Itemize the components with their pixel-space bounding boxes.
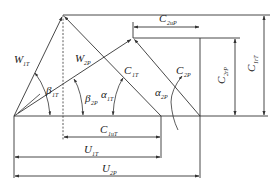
svg-text:C: C xyxy=(215,76,227,84)
label-w1t: W 1T xyxy=(14,53,30,67)
svg-text:2P: 2P xyxy=(161,94,168,100)
velocity-triangle-diagram: W 1T W 2P C 1T C 2P C 2uP C 2rP C 1rT C … xyxy=(0,0,277,188)
svg-text:1T: 1T xyxy=(132,72,139,78)
svg-text:1T: 1T xyxy=(23,61,30,67)
svg-text:1uT: 1uT xyxy=(108,131,118,137)
svg-text:2P: 2P xyxy=(84,60,91,66)
svg-text:C: C xyxy=(245,64,257,72)
svg-text:2P: 2P xyxy=(184,72,191,78)
label-c2up: C 2uP xyxy=(159,12,177,26)
svg-text:1T: 1T xyxy=(92,151,99,157)
label-u2p: U 2P xyxy=(102,162,117,176)
label-alpha2p: α 2P xyxy=(155,86,168,100)
label-c1ut: C 1uT xyxy=(100,123,118,137)
svg-text:β: β xyxy=(84,92,91,104)
svg-text:C: C xyxy=(176,64,184,76)
label-c1t: C 1T xyxy=(124,64,139,78)
w1t-vector xyxy=(14,17,62,116)
label-alpha1t: α 1T xyxy=(101,88,114,102)
beta2p-arc xyxy=(74,79,83,115)
label-u1t: U 1T xyxy=(84,143,99,157)
label-beta2p: β 2P xyxy=(84,92,98,106)
svg-text:1T: 1T xyxy=(52,92,59,98)
svg-text:1T: 1T xyxy=(107,96,114,102)
svg-text:2P: 2P xyxy=(91,100,98,106)
label-c2rp: C 2rP xyxy=(215,67,229,84)
beta1t-leader xyxy=(18,94,40,113)
label-w2p: W 2P xyxy=(75,52,91,66)
svg-text:1rT: 1rT xyxy=(253,55,259,64)
svg-text:C: C xyxy=(124,64,132,76)
label-c1rt: C 1rT xyxy=(245,55,259,72)
svg-text:C: C xyxy=(159,12,167,24)
w2p-vector xyxy=(14,40,131,117)
svg-text:2uP: 2uP xyxy=(167,20,177,26)
svg-text:C: C xyxy=(100,123,108,135)
svg-text:2rP: 2rP xyxy=(223,67,229,76)
svg-text:2P: 2P xyxy=(110,170,117,176)
label-c2p: C 2P xyxy=(176,64,191,78)
alpha1t-arc xyxy=(113,78,123,115)
svg-text:β: β xyxy=(45,84,52,96)
